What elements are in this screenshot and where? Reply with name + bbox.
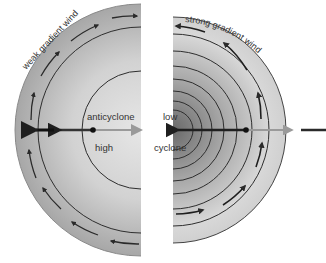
anticyclone-half: anticyclone high weak gradient wind (15, 4, 141, 256)
air-parcel-dot (243, 127, 249, 133)
label-low: low (163, 111, 177, 122)
gradient-wind-diagram: anticyclone high weak gradient wind (0, 0, 326, 263)
label-cyclone: cyclone (154, 142, 186, 153)
label-anticyclone: anticyclone (87, 111, 135, 122)
label-high: high (95, 142, 113, 153)
air-parcel-dot (90, 127, 96, 133)
cyclone-half: low cyclone strong gradient wind (154, 14, 326, 243)
